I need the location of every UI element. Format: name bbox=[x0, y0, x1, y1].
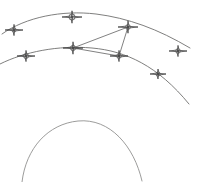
survey-diagram-svg bbox=[0, 0, 198, 182]
survey-diagram-canvas bbox=[0, 0, 198, 182]
